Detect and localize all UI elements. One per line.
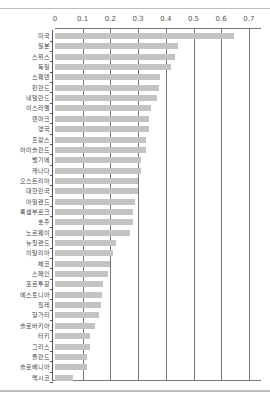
gridline (249, 28, 250, 380)
category-label: 노르웨이 (26, 230, 50, 236)
y-tick-mark (50, 330, 53, 331)
y-tick-mark (50, 154, 53, 155)
y-tick-mark (50, 185, 53, 186)
y-tick-mark (50, 237, 53, 238)
bar (55, 116, 149, 122)
x-tick-label: 0.1 (77, 15, 88, 23)
category-label: 뉴질랜드 (26, 240, 50, 246)
y-tick-mark (50, 72, 53, 73)
category-label: 핀란드 (32, 85, 50, 91)
category-label: 에스토니아 (20, 292, 50, 298)
y-tick-mark (50, 289, 53, 290)
y-tick-mark (50, 372, 53, 373)
bar (55, 126, 149, 132)
category-label: 터키 (38, 333, 50, 339)
horizontal-bar-chart: 00.10.20.30.40.50.60.7 미국일본스위스독일스웨덴핀란드네덜… (0, 0, 270, 397)
gridline (194, 28, 195, 380)
y-tick-mark (50, 134, 53, 135)
y-tick-mark (50, 113, 53, 114)
category-label: 체코 (38, 261, 50, 267)
gridline (166, 28, 167, 380)
y-tick-mark (50, 51, 53, 52)
y-tick-mark (50, 299, 53, 300)
y-tick-mark (50, 82, 53, 83)
category-label: 벨기에 (32, 157, 50, 163)
gridline (138, 28, 139, 380)
bar (55, 261, 110, 267)
bar (55, 240, 116, 246)
bar (55, 250, 113, 256)
x-tick-label: 0.6 (216, 15, 227, 23)
gridline (221, 28, 222, 380)
x-tick-label: 0.7 (243, 15, 254, 23)
y-tick-mark (50, 206, 53, 207)
category-label: 덴마크 (32, 116, 50, 122)
category-label: 대한민국 (26, 188, 50, 194)
bar (55, 281, 103, 287)
y-tick-mark (50, 165, 53, 166)
category-label: 포르투갈 (26, 281, 50, 287)
category-label: 네덜란드 (26, 95, 50, 101)
bar (55, 178, 138, 184)
category-label: 일본 (38, 43, 50, 49)
category-label: 프랑스 (32, 137, 50, 143)
y-tick-mark (50, 216, 53, 217)
bar (55, 209, 133, 215)
y-tick-mark (50, 268, 53, 269)
bar (55, 33, 234, 39)
y-tick-mark (50, 227, 53, 228)
category-label: 독일 (38, 64, 50, 70)
category-label: 폴란드 (32, 354, 50, 360)
category-label: 칠레 (38, 302, 50, 308)
y-tick-mark (50, 279, 53, 280)
category-label: 호주 (38, 219, 50, 225)
bar (55, 157, 141, 163)
category-label: 슬로바키아 (20, 323, 50, 329)
y-tick-mark (50, 382, 53, 383)
y-tick-mark (50, 175, 53, 176)
category-label: 헝가리 (32, 312, 50, 318)
bar (55, 147, 146, 153)
x-axis-bottom-line (52, 380, 261, 381)
y-tick-mark (50, 248, 53, 249)
bar (55, 74, 160, 80)
x-tick-label: 0.4 (160, 15, 171, 23)
x-tick-label: 0.3 (133, 15, 144, 23)
category-label: 스웨덴 (32, 74, 50, 80)
bar (55, 199, 135, 205)
x-tick-label: 0.2 (105, 15, 116, 23)
category-label: 그리스 (32, 344, 50, 350)
x-tick-label: 0.5 (188, 15, 199, 23)
y-tick-mark (50, 144, 53, 145)
y-tick-mark (50, 41, 53, 42)
bar (55, 354, 87, 360)
category-label: 영국 (38, 126, 50, 132)
category-label: 슬로베니아 (20, 364, 50, 370)
bar (55, 43, 178, 49)
bar (55, 312, 99, 318)
category-label: 아일랜드 (26, 199, 50, 205)
bar (55, 323, 95, 329)
bar (55, 85, 159, 91)
bar (55, 271, 108, 277)
category-label: 멕시코 (32, 375, 50, 381)
bar (55, 64, 171, 70)
bar (55, 188, 138, 194)
category-label: 캐나다 (32, 168, 50, 174)
y-tick-mark (50, 310, 53, 311)
category-label: 이스라엘 (26, 105, 50, 111)
y-tick-mark (50, 361, 53, 362)
y-tick-mark (50, 196, 53, 197)
bar (55, 302, 101, 308)
x-tick-label: 0 (53, 15, 57, 23)
bar (55, 344, 90, 350)
category-label: 미국 (38, 33, 50, 39)
category-label: 스위스 (32, 54, 50, 60)
bar (55, 137, 146, 143)
bar (55, 105, 151, 111)
bar (55, 333, 90, 339)
y-tick-mark (50, 351, 53, 352)
y-tick-mark (50, 61, 53, 62)
x-axis-top-line (55, 28, 261, 29)
y-tick-mark (50, 92, 53, 93)
